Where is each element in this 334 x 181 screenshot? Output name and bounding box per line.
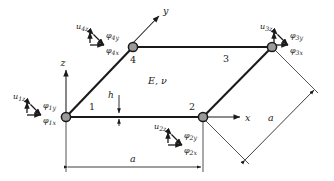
z-axis: z bbox=[60, 57, 67, 114]
member-1-4 bbox=[66, 47, 133, 117]
member-2-3 bbox=[203, 47, 272, 117]
node-3-phix-label: φ3x bbox=[290, 46, 304, 56]
x-axis-label: x bbox=[245, 112, 251, 123]
node-1-uz-label: u1z bbox=[13, 92, 26, 102]
node-4-phix-label: φ4x bbox=[106, 46, 120, 56]
thickness-label: h bbox=[108, 90, 114, 100]
y-axis: y bbox=[131, 5, 169, 45]
node-1-marker[interactable] bbox=[61, 112, 70, 121]
node-4-phiy-label: φ4y bbox=[106, 31, 120, 42]
node-1-dof-triad: u1z φ1y φ1x bbox=[13, 92, 57, 126]
edge-label-2: 2 bbox=[189, 101, 195, 112]
node-4-label: 4 bbox=[130, 54, 136, 65]
dimension-a-horizontal-label: a bbox=[130, 153, 136, 164]
node-2-uz-label: u2z bbox=[154, 122, 167, 132]
node-1-phix-label: φ1x bbox=[43, 116, 57, 126]
node-3-dof-triad: u3z φ3y φ3x bbox=[260, 22, 304, 56]
node-2-dof-triad: u2z φ2y φ2x bbox=[154, 122, 198, 156]
node-2-phix-label: φ2x bbox=[184, 146, 198, 156]
node-1-phiy-label: φ1y bbox=[43, 101, 57, 112]
plate-element-diagram: z x y E, ν h 1 2 3 bbox=[0, 0, 334, 181]
node-2-phiy-label: φ2y bbox=[184, 131, 198, 142]
dimension-a-horizontal: a bbox=[66, 122, 203, 172]
z-axis-label: z bbox=[60, 57, 67, 68]
edge-label-1: 1 bbox=[89, 101, 95, 112]
edge-label-3: 3 bbox=[223, 53, 229, 64]
node-3-phiy-label: φ3y bbox=[290, 31, 304, 42]
node-2-marker[interactable] bbox=[198, 112, 207, 121]
figure-root: z x y E, ν h 1 2 3 bbox=[0, 0, 334, 181]
node-4-uz-label: u4z bbox=[76, 22, 89, 32]
node-4-dof-triad: u4z φ4y φ4x bbox=[76, 22, 120, 56]
material-property-label: E, ν bbox=[147, 75, 167, 86]
node-3-uz-label: u3z bbox=[260, 22, 273, 32]
node-3-marker[interactable] bbox=[267, 42, 276, 51]
dimension-a-diagonal-label: a bbox=[268, 112, 274, 123]
y-axis-label: y bbox=[162, 5, 169, 16]
thickness-dimension: h bbox=[108, 90, 119, 126]
element-outline bbox=[66, 47, 272, 117]
dimension-a-diagonal: a bbox=[206, 50, 318, 164]
x-axis: x bbox=[206, 112, 251, 123]
node-4-marker[interactable] bbox=[128, 42, 137, 51]
